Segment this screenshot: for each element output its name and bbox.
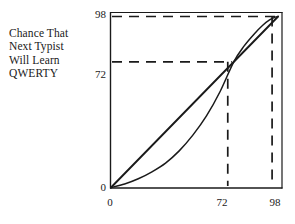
figure-container: Chance That Next Typist Will Learn QWERT…: [0, 0, 295, 224]
caption-line-1: Chance That: [9, 27, 105, 40]
y-axis-tick-label-0: 0: [82, 181, 106, 193]
caption-line-3: Will Learn: [9, 54, 105, 67]
y-axis-tick-label-98: 98: [82, 8, 106, 20]
x-axis-tick-label-0: 0: [98, 196, 122, 208]
caption-line-2: Next Typist: [9, 40, 105, 53]
forty-five-degree-line: [111, 16, 278, 187]
x-axis-tick-label-98: 98: [263, 196, 287, 208]
y-axis-tick-label-72: 72: [82, 68, 106, 80]
x-axis-tick-label-72: 72: [210, 196, 234, 208]
